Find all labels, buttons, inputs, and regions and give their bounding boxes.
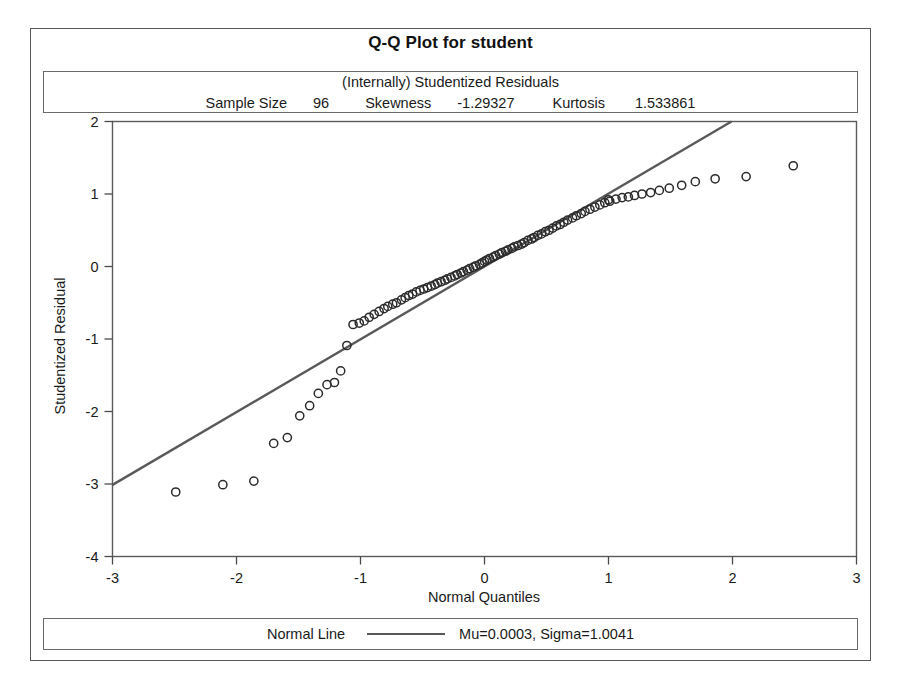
kurtosis-label: Kurtosis <box>553 95 605 111</box>
sample-size-label: Sample Size <box>206 95 287 111</box>
page-title: Q-Q Plot for student <box>31 33 870 53</box>
legend-line-swatch <box>367 633 445 635</box>
stats-subtitle: (Internally) Studentized Residuals <box>44 74 857 90</box>
x-axis-title: Normal Quantiles <box>112 589 856 605</box>
skewness-value: -1.29327 <box>457 95 514 111</box>
sample-size-value: 96 <box>313 95 329 111</box>
y-axis-title: Studentized Residual <box>52 226 68 466</box>
stats-row: Sample Size 96 Skewness -1.29327 Kurtosi… <box>44 94 857 112</box>
legend-series-label: Normal Line <box>267 626 345 642</box>
legend-params-text: Mu=0.0003, Sigma=1.0041 <box>459 626 634 642</box>
skewness-label: Skewness <box>365 95 431 111</box>
figure-outer-border <box>30 28 871 661</box>
legend-entry-normal-line: Normal Line Mu=0.0003, Sigma=1.0041 <box>267 626 634 642</box>
statistics-box: (Internally) Studentized Residuals Sampl… <box>43 71 858 113</box>
kurtosis-value: 1.533861 <box>635 95 695 111</box>
legend: Normal Line Mu=0.0003, Sigma=1.0041 <box>43 618 858 650</box>
qq-plot-figure: Q-Q Plot for student (Internally) Studen… <box>0 0 901 689</box>
